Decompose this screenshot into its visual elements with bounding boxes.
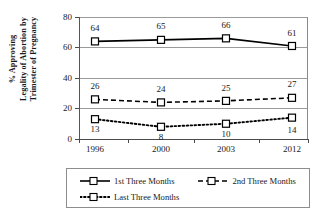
data-label-s3-2012: 14 (278, 126, 306, 135)
x-tick-label-2012: 2012 (269, 145, 315, 154)
x-tick-label-2003: 2003 (203, 145, 249, 154)
abortion-trimester-line-chart: % Approving Legality of Abortion by Trim… (0, 0, 333, 214)
data-label-s2-2012: 27 (278, 80, 306, 89)
x-tick-mark-2 (194, 139, 195, 143)
legend-label-2: 2nd Three Months (232, 177, 295, 186)
data-label-s1-2003: 66 (212, 21, 240, 30)
y-tick-label-60: 60 (52, 43, 72, 52)
data-label-s1-2012: 61 (278, 29, 306, 38)
y-tick-mark-80 (75, 17, 79, 18)
data-label-s2-2003: 25 (212, 84, 240, 93)
y-axis-title-line-3: Trimester of Pregnancy (29, 17, 39, 102)
x-tick-mark-0 (79, 139, 80, 143)
data-label-s3-1996: 13 (81, 125, 109, 134)
legend-entry-2nd-three-months[interactable]: 2nd Three Months (198, 176, 295, 186)
y-tick-mark-60 (75, 47, 79, 48)
data-label-s2-2000: 24 (147, 85, 175, 94)
y-axis-title-line-1: % Approving (8, 35, 18, 84)
plot-area (79, 17, 308, 139)
legend: 1st Three Months 2nd Three Months (66, 168, 310, 208)
data-label-s1-2000: 65 (147, 22, 175, 31)
x-tick-label-2000: 2000 (138, 145, 184, 154)
y-tick-mark-20 (75, 108, 79, 109)
x-tick-label-1996: 1996 (72, 145, 118, 154)
y-tick-label-0: 0 (52, 135, 72, 144)
data-label-s2-1996: 26 (81, 82, 109, 91)
y-tick-label-40: 40 (52, 74, 72, 83)
legend-entry-last-three-months[interactable]: Last Three Months (80, 192, 179, 202)
legend-label-1: 1st Three Months (114, 177, 174, 186)
legend-swatch-dotted-icon (80, 192, 110, 202)
legend-swatch-solid-icon (80, 176, 110, 186)
legend-swatch-dashed-icon (198, 176, 228, 186)
data-label-s3-2000: 8 (147, 133, 175, 142)
y-tick-label-20: 20 (52, 104, 72, 113)
data-label-s1-1996: 64 (81, 24, 109, 33)
data-label-s3-2003: 10 (212, 130, 240, 139)
legend-entry-1st-three-months[interactable]: 1st Three Months (80, 176, 174, 186)
legend-label-3: Last Three Months (114, 193, 179, 202)
y-tick-mark-40 (75, 78, 79, 79)
x-tick-mark-4 (308, 139, 309, 143)
y-axis-title: % Approving Legality of Abortion by Trim… (1, 0, 47, 121)
x-tick-mark-3 (259, 139, 260, 143)
y-tick-label-80: 80 (52, 13, 72, 22)
x-tick-mark-1 (128, 139, 129, 143)
y-axis-title-line-2: Legality of Abortion by (19, 17, 29, 101)
